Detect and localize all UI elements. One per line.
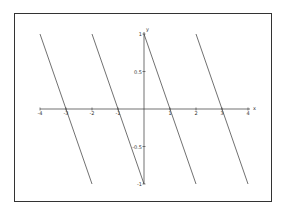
tick-labels: -4-3-2-1123410.5-0.5-1xy: [38, 26, 257, 187]
y-tick-label: 1: [139, 31, 142, 37]
y-axis-label: y: [146, 26, 149, 33]
x-tick-label: -2: [90, 110, 95, 116]
x-tick-label: 3: [220, 110, 223, 116]
y-tick-label: -1: [137, 181, 142, 187]
x-tick-label: -1: [116, 110, 121, 116]
y-tick-label: -0.5: [132, 144, 142, 150]
x-tick-label: 2: [194, 110, 197, 116]
x-tick-label: -3: [64, 110, 69, 116]
sawtooth-plot: -4-3-2-1123410.5-0.5-1xy: [0, 0, 288, 215]
x-tick-label: -4: [38, 110, 43, 116]
x-axis-label: x: [253, 105, 256, 111]
x-tick-label: 1: [168, 110, 171, 116]
x-tick-label: 4: [246, 110, 249, 116]
axes: [40, 32, 250, 184]
y-tick-label: 0.5: [134, 69, 142, 75]
